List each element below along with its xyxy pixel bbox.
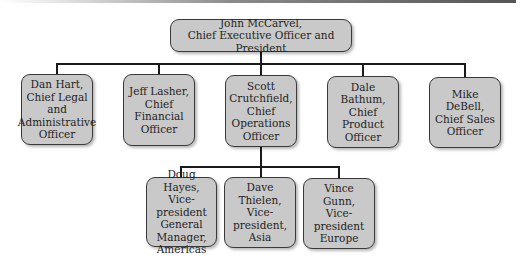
node-chief-product-officer: Dale Bathum, Chief Product Officer	[327, 76, 399, 148]
node-chief-operations-officer: Scott Crutchfield, Chief Operations Offi…	[225, 75, 297, 147]
node-chief-financial-officer: Jeff Lasher, Chief Financial Officer	[123, 74, 195, 146]
node-label: Dave Thielen, Vice-president, Asia	[228, 181, 292, 244]
connector-coo	[260, 63, 262, 75]
top-rule	[0, 0, 516, 3]
node-label: Vince Gunn, Vice-president Europe	[307, 182, 371, 245]
connector-vp-europe	[338, 166, 340, 178]
node-label: Jeff Lasher, Chief Financial Officer	[127, 85, 191, 135]
node-label: Scott Crutchfield, Chief Operations Offi…	[229, 80, 292, 143]
node-label: Dale Bathum, Chief Product Officer	[331, 81, 395, 144]
connector-cso	[464, 63, 466, 77]
node-chief-sales-officer: Mike DeBell, Chief Sales Officer	[429, 77, 501, 148]
node-chief-legal-officer: Dan Hart, Chief Legal and Administrative…	[21, 74, 93, 145]
node-label: Doug Hayes, Vice-president General Manag…	[150, 168, 213, 256]
node-label: Dan Hart, Chief Legal and Administrative…	[18, 78, 96, 141]
node-vp-europe: Vince Gunn, Vice-president Europe	[303, 178, 375, 249]
node-vp-americas: Doug Hayes, Vice-president General Manag…	[146, 177, 217, 247]
node-ceo: John McCarvel, Chief Executive Officer a…	[170, 19, 352, 52]
node-label: Mike DeBell, Chief Sales Officer	[433, 88, 497, 138]
node-ceo-label: John McCarvel, Chief Executive Officer a…	[175, 17, 347, 55]
connector-coo-down	[260, 147, 262, 177]
connector-cpo	[362, 63, 364, 76]
node-vp-asia: Dave Thielen, Vice-president, Asia	[224, 177, 296, 248]
